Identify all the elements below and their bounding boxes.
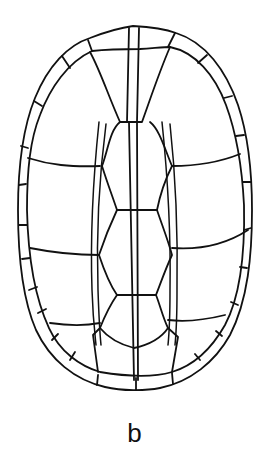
marginal-tick [240,267,247,268]
vertebral-scute-3 [99,210,172,295]
midline-left [129,122,134,380]
longitudinal-line-right-outer [170,124,177,345]
marginal-tick [168,33,175,47]
costal-divider-right-2 [172,230,248,248]
marginal-tick [244,228,251,230]
carapace-drawing [0,0,269,452]
figure-label: b [0,418,269,448]
marginal-tick [198,55,207,63]
marginal-tick [97,375,98,385]
vertebral-line-left [127,28,129,122]
vertebral-scute-1 [90,47,170,122]
costal-divider-left-1 [28,158,100,166]
costal-divider-left-3 [50,323,100,325]
carapace-figure [0,0,269,452]
marginal-tick [224,96,232,98]
marginal-tick [172,373,173,384]
marginal-tick [34,101,42,106]
posterior-left [93,328,100,372]
vertebral-line-right [137,28,139,122]
marginal-tick [22,258,30,259]
marginal-tick [236,135,244,136]
midline-right [137,122,138,380]
marginal-tick [62,56,70,68]
carapace-inner-rim [27,47,244,376]
marginal-tick [88,40,92,51]
costal-divider-right-1 [172,154,240,166]
marginal-tick [19,184,26,185]
costal-divider-left-2 [30,248,99,255]
